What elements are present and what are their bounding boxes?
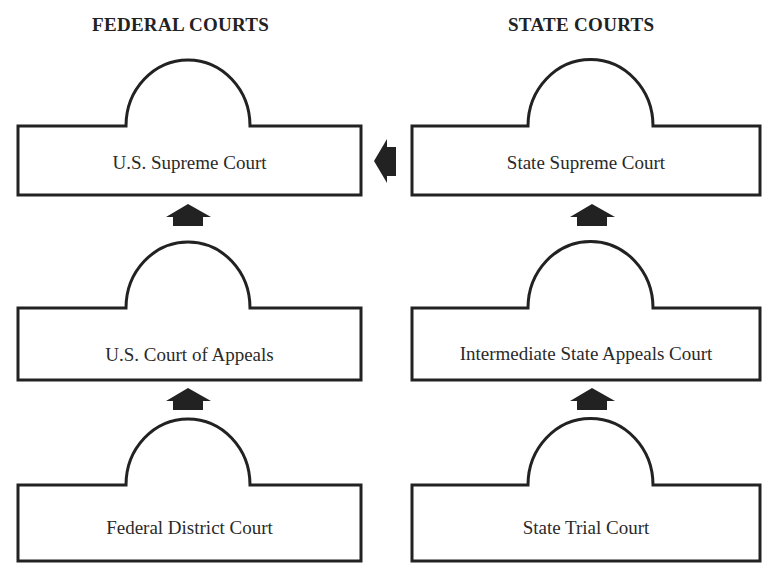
up-arrow-icon (570, 388, 615, 410)
up-arrow-icon (166, 388, 211, 410)
court-label-state-supreme-court: State Supreme Court (412, 152, 760, 174)
court-diagram (0, 0, 774, 577)
court-label-us-court-of-appeals: U.S. Court of Appeals (18, 344, 361, 366)
court-label-us-supreme-court: U.S. Supreme Court (18, 152, 361, 174)
court-label-federal-district-court: Federal District Court (18, 517, 361, 539)
court-label-state-trial-court: State Trial Court (412, 517, 760, 539)
federal-district-court-building (18, 419, 361, 561)
state-trial-court-building (412, 418, 760, 561)
us-supreme-court-building (18, 60, 361, 195)
up-arrow-icon (166, 204, 211, 226)
left-arrow-icon (374, 139, 396, 183)
up-arrow-icon (570, 204, 615, 226)
court-label-intermediate-state-appeals-court: Intermediate State Appeals Court (412, 343, 760, 365)
state-supreme-court-building (412, 59, 760, 195)
